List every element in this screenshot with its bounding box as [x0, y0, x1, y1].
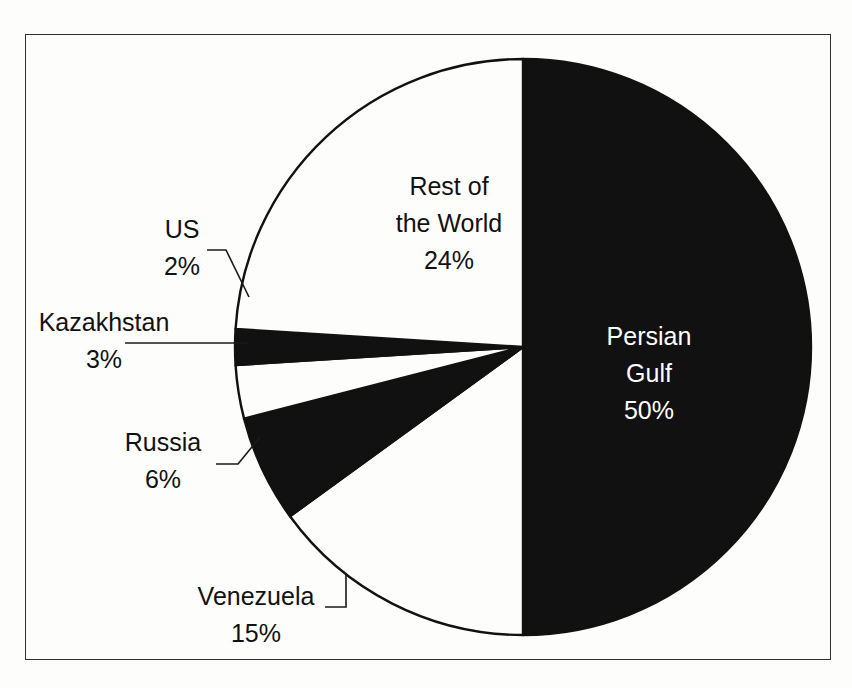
slice-label-us: US 2% [164, 215, 200, 280]
venezuela-percent: 15% [231, 619, 281, 647]
rest-of-world-label-line2: the World [396, 209, 503, 237]
us-percent: 2% [164, 252, 200, 280]
rest-of-world-percent: 24% [424, 246, 474, 274]
slice-label-kazakhstan: Kazakhstan 3% [39, 308, 170, 373]
kazakhstan-label-name: Kazakhstan [39, 308, 170, 336]
venezuela-label-name: Venezuela [198, 582, 315, 610]
pie-chart: Persian Gulf 50% Rest of the World 24% U… [0, 0, 852, 688]
pie-slices-group [235, 59, 811, 635]
persian-gulf-percent: 50% [624, 396, 674, 424]
kazakhstan-percent: 3% [86, 345, 122, 373]
rest-of-world-label-line1: Rest of [409, 172, 488, 200]
chart-root: Persian Gulf 50% Rest of the World 24% U… [0, 0, 852, 688]
persian-gulf-label-line1: Persian [607, 322, 692, 350]
russia-label-name: Russia [125, 428, 202, 456]
pie-slice-rest-of-the-world[interactable] [236, 59, 523, 347]
persian-gulf-label-line2: Gulf [626, 359, 672, 387]
us-label-name: US [165, 215, 200, 243]
leader-line-venezuela [325, 573, 346, 607]
slice-label-russia: Russia 6% [125, 428, 202, 493]
russia-percent: 6% [145, 465, 181, 493]
slice-label-venezuela: Venezuela 15% [198, 582, 315, 647]
